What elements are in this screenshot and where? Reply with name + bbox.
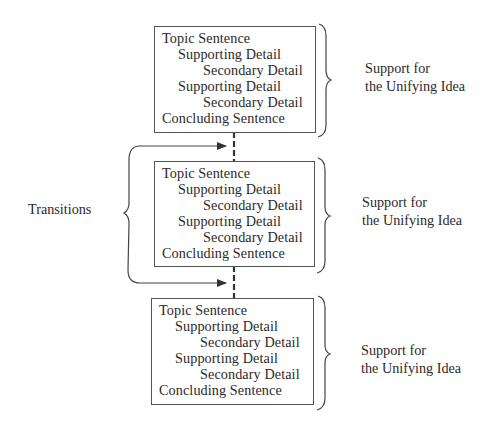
- secondary-detail: Secondary Detail: [203, 94, 303, 110]
- secondary-detail: Secondary Detail: [203, 197, 303, 213]
- paragraph-box-1: Topic Sentence Supporting Detail Seconda…: [154, 26, 316, 133]
- supporting-detail: Supporting Detail: [178, 46, 281, 62]
- transitions-brace-icon: [124, 160, 129, 270]
- supporting-detail: Supporting Detail: [178, 213, 281, 229]
- support-label-line1: Support for: [361, 341, 461, 359]
- secondary-detail: Secondary Detail: [203, 229, 303, 245]
- paragraph-box-2: Topic Sentence Supporting Detail Seconda…: [154, 161, 315, 267]
- supporting-detail: Supporting Detail: [175, 318, 278, 334]
- brace-icon-1: [318, 24, 331, 137]
- concluding-sentence: Concluding Sentence: [162, 245, 285, 261]
- transitions-label: Transitions: [28, 201, 91, 218]
- secondary-detail: Secondary Detail: [200, 334, 300, 350]
- support-label-line1: Support for: [362, 193, 462, 211]
- concluding-sentence: Concluding Sentence: [162, 110, 285, 126]
- topic-sentence: Topic Sentence: [162, 165, 250, 181]
- concluding-sentence: Concluding Sentence: [159, 382, 282, 398]
- brace-icon-2: [317, 158, 330, 273]
- support-label-line2: the Unifying Idea: [362, 211, 462, 229]
- paragraph-box-3: Topic Sentence Supporting Detail Seconda…: [151, 298, 314, 405]
- supporting-detail: Supporting Detail: [178, 181, 281, 197]
- transitions-arrow-top: [129, 146, 226, 160]
- brace-icon-3: [317, 296, 330, 410]
- support-label-line1: Support for: [365, 59, 465, 77]
- transitions-arrow-bottom: [128, 270, 226, 283]
- supporting-detail: Supporting Detail: [178, 78, 281, 94]
- topic-sentence: Topic Sentence: [162, 30, 250, 46]
- secondary-detail: Secondary Detail: [203, 62, 303, 78]
- support-label-line2: the Unifying Idea: [365, 77, 465, 95]
- supporting-detail: Supporting Detail: [175, 350, 278, 366]
- topic-sentence: Topic Sentence: [159, 302, 247, 318]
- support-label-2: Support for the Unifying Idea: [362, 193, 462, 229]
- secondary-detail: Secondary Detail: [200, 366, 300, 382]
- support-label-1: Support for the Unifying Idea: [365, 59, 465, 95]
- support-label-3: Support for the Unifying Idea: [361, 341, 461, 377]
- support-label-line2: the Unifying Idea: [361, 359, 461, 377]
